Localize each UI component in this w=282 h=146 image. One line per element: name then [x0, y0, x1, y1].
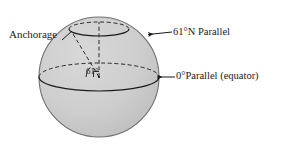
- parallel-61n-label: 61°N Parallel: [173, 27, 230, 38]
- latitude-sphere-figure: Anchorage 61°N Parallel 0°Parallel (equa…: [0, 0, 282, 146]
- equator-label: 0°Parallel (equator): [176, 71, 259, 82]
- parallel-61n-leader-line: [148, 32, 172, 35]
- sphere-center-point: [98, 76, 100, 78]
- center-angle-label: 61°: [86, 67, 99, 76]
- anchorage-label: Anchorage: [9, 29, 57, 40]
